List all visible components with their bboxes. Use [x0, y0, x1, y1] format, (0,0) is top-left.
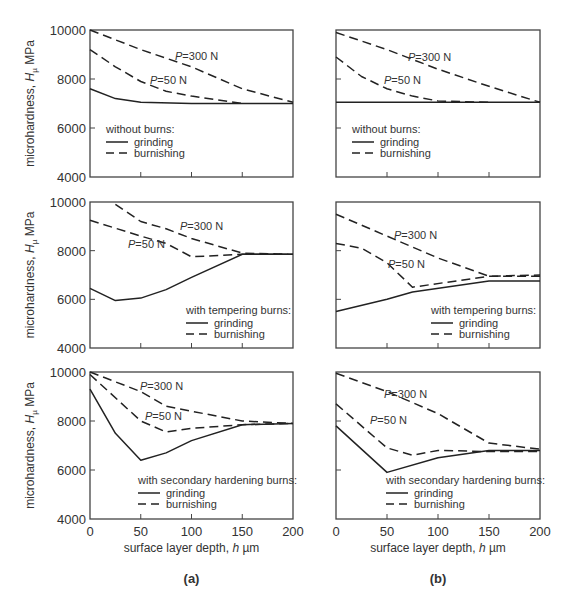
x-tick-label: 50	[380, 524, 394, 539]
x-tick-label: 100	[427, 524, 449, 539]
y-tick-label: 10000	[50, 365, 86, 380]
legend-title: with tempering burns:	[185, 304, 291, 316]
legend: with tempering burns:grindingburnishing	[185, 304, 291, 340]
chart-panel-3a: 10000800060004000microhardness, Hµ MPa05…	[23, 365, 304, 586]
y-tick-label: 8000	[57, 244, 86, 259]
legend: with secondary hardening burns:grindingb…	[137, 474, 297, 510]
legend-title: with secondary hardening burns:	[385, 474, 545, 486]
grinding-line	[90, 254, 293, 300]
burnishing-300n-line	[90, 30, 293, 102]
y-tick-label: 10000	[50, 195, 86, 210]
y-tick-label: 8000	[57, 414, 86, 429]
annotation-p300: P=300 N	[140, 380, 183, 392]
annotation-p300: P=300 N	[180, 220, 223, 232]
x-axis-title: surface layer depth, h µm	[124, 541, 260, 555]
x-tick-label: 200	[282, 524, 304, 539]
chart-panel-2a: 10000800060004000microhardness, Hµ MPaP=…	[23, 195, 293, 356]
legend-burnishing-label: burnishing	[459, 328, 510, 340]
y-tick-label: 8000	[57, 72, 86, 87]
panel-caption: (a)	[184, 571, 200, 586]
annotation-p300: P=300 N	[175, 50, 218, 62]
x-tick-label: 200	[529, 524, 551, 539]
burnishing-300n-line	[336, 214, 540, 276]
x-tick-label: 50	[134, 524, 148, 539]
chart-panel-1a: 10000800060004000microhardness, Hµ MPaP=…	[23, 23, 293, 185]
y-tick-label: 6000	[57, 121, 86, 136]
chart-panel-1b: P=300 NP=50 Nwithout burns:grindingburni…	[336, 30, 540, 177]
annotation-p50: P=50 N	[370, 414, 407, 426]
panel-caption: (b)	[430, 571, 447, 586]
x-tick-label: 150	[231, 524, 253, 539]
legend: without burns:grindingburnishing	[351, 123, 431, 159]
legend: with secondary hardening burns:grindingb…	[385, 474, 545, 510]
y-axis-title: microhardness, Hµ MPa	[23, 40, 39, 167]
annotation-p50: P=50 N	[384, 74, 421, 86]
annotation-p50: P=50 N	[150, 74, 187, 86]
burnishing-50n-line	[336, 404, 540, 455]
chart-panel-2b: P=300 NP=50 Nwith tempering burns:grindi…	[336, 202, 540, 348]
y-tick-label: 6000	[57, 292, 86, 307]
legend-title: with secondary hardening burns:	[137, 474, 297, 486]
burnishing-300n-line	[336, 373, 540, 449]
annotation-p50: P=50 N	[128, 238, 165, 250]
legend-burnishing-label: burnishing	[214, 328, 265, 340]
y-tick-label: 10000	[50, 23, 86, 38]
annotation-p50: P=50 N	[145, 410, 182, 422]
legend-burnishing-label: burnishing	[380, 147, 431, 159]
legend-burnishing-label: burnishing	[414, 498, 465, 510]
legend-title: without burns:	[351, 123, 420, 135]
chart-panel-3b: 050100150200surface layer depth, h µm(b)…	[332, 372, 550, 586]
annotation-p50: P=50 N	[388, 258, 425, 270]
y-tick-label: 6000	[57, 463, 86, 478]
burnishing-300n-line	[336, 33, 540, 103]
annotation-p300: P=300 N	[394, 229, 437, 241]
grinding-line	[336, 426, 540, 473]
y-tick-label: 4000	[57, 512, 86, 527]
legend-title: with tempering burns:	[430, 304, 536, 316]
y-tick-label: 4000	[57, 170, 86, 185]
x-tick-label: 0	[332, 524, 339, 539]
x-tick-label: 100	[181, 524, 203, 539]
x-tick-label: 150	[478, 524, 500, 539]
y-axis-title: microhardness, Hµ MPa	[23, 211, 39, 338]
legend: without burns:grindingburnishing	[105, 123, 185, 159]
figure: 10000800060004000microhardness, Hµ MPaP=…	[0, 0, 568, 596]
annotation-p300: P=300 N	[384, 388, 427, 400]
legend-burnishing-label: burnishing	[166, 498, 217, 510]
annotation-p300: P=300 N	[408, 51, 451, 63]
x-axis-title: surface layer depth, h µm	[370, 541, 506, 555]
y-tick-label: 4000	[57, 341, 86, 356]
legend-title: without burns:	[105, 123, 174, 135]
legend: with tempering burns:grindingburnishing	[430, 304, 536, 340]
x-tick-label: 0	[86, 524, 93, 539]
grinding-line	[90, 389, 293, 460]
legend-burnishing-label: burnishing	[134, 147, 185, 159]
burnishing-300n-line	[90, 372, 293, 423]
y-axis-title: microhardness, Hµ MPa	[23, 382, 39, 509]
